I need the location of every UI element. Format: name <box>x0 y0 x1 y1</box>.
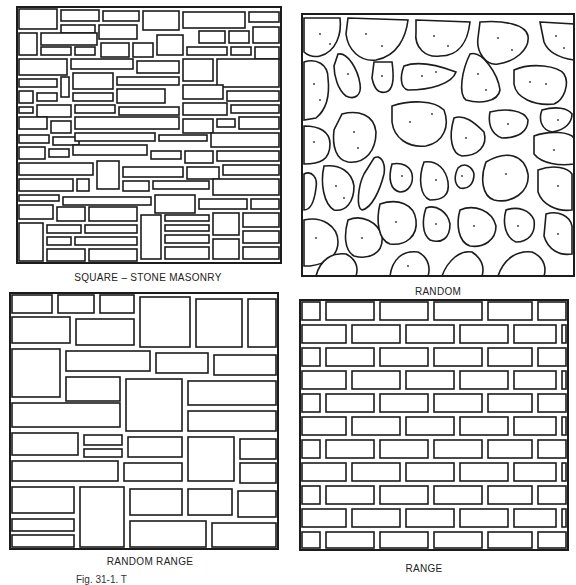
label-random-range: RANDOM RANGE <box>85 556 215 567</box>
label-square-stone-masonry: SQUARE – STONE MASONRY <box>58 272 238 283</box>
random-stones <box>304 18 574 276</box>
label-range: RANGE <box>384 563 464 574</box>
range-bricks <box>302 302 566 548</box>
square-stone-masonry-panel <box>17 7 281 265</box>
random-panel <box>302 14 576 276</box>
random-range-stones <box>12 295 276 547</box>
figure-caption: Fig. 31-1. T <box>76 574 127 585</box>
random-range-panel <box>10 293 278 549</box>
range-panel <box>300 300 568 550</box>
label-random: RANDOM <box>388 286 488 297</box>
square-stones <box>19 9 279 261</box>
